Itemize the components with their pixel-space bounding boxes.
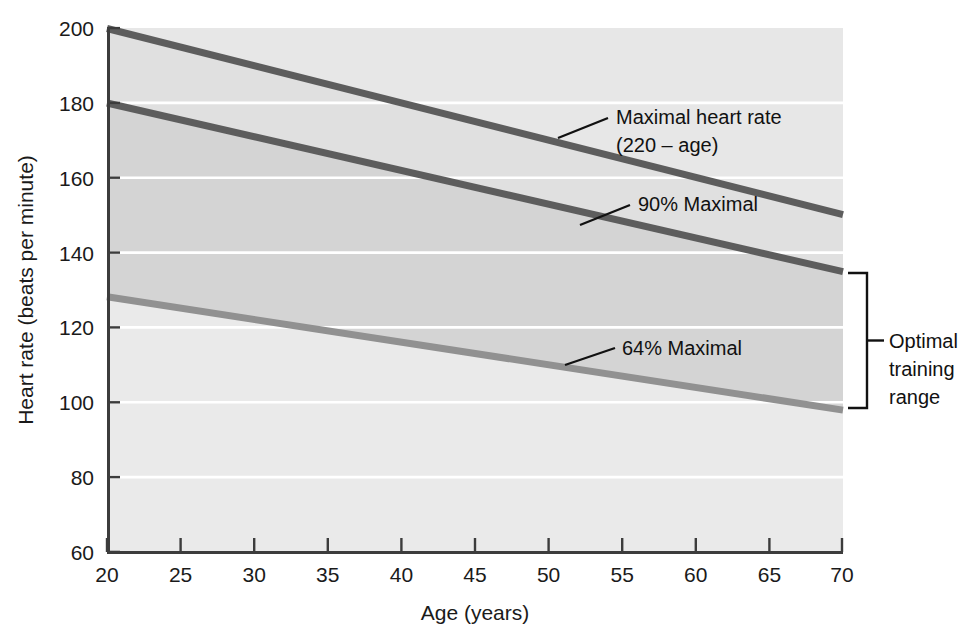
x-tick-label-55: 55 <box>611 563 634 586</box>
x-tick-label-45: 45 <box>463 563 486 586</box>
optimal-training-range-bracket <box>848 273 884 408</box>
optimal-training-range-label: Optimal training range <box>889 330 958 408</box>
y-tick-label-180: 180 <box>59 92 94 115</box>
annotation-90-percent-maximal: 90% Maximal <box>638 193 758 215</box>
chart-svg: 200 180 160 140 120 100 80 60 20 25 30 3… <box>0 0 970 638</box>
x-tick-label-25: 25 <box>169 563 192 586</box>
bracket-label-line3: range <box>889 386 940 408</box>
y-tick-label-140: 140 <box>59 242 94 265</box>
y-tick-label-160: 160 <box>59 167 94 190</box>
annotation-maximal-line1: Maximal heart rate <box>616 106 782 128</box>
y-tick-label-200: 200 <box>59 17 94 40</box>
y-tick-label-120: 120 <box>59 316 94 339</box>
y-tick-labels: 200 180 160 140 120 100 80 60 <box>59 17 94 564</box>
annotation-maximal-line2: (220 – age) <box>616 134 718 156</box>
x-tick-label-30: 30 <box>243 563 266 586</box>
annotation-64-percent-maximal: 64% Maximal <box>622 337 742 359</box>
x-tick-label-50: 50 <box>537 563 560 586</box>
x-tick-label-40: 40 <box>390 563 413 586</box>
x-tick-label-70: 70 <box>830 563 853 586</box>
x-tick-label-20: 20 <box>95 563 118 586</box>
bracket-label-line1: Optimal <box>889 330 958 352</box>
x-tick-labels: 20 25 30 35 40 45 50 55 60 65 70 <box>95 563 853 586</box>
x-tick-label-60: 60 <box>684 563 707 586</box>
y-tick-label-100: 100 <box>59 391 94 414</box>
x-tick-label-35: 35 <box>316 563 339 586</box>
bracket-path <box>848 273 867 408</box>
y-axis-title: Heart rate (beats per minute) <box>14 155 37 425</box>
bracket-label-line2: training <box>889 358 955 380</box>
heart-rate-training-zone-chart: 200 180 160 140 120 100 80 60 20 25 30 3… <box>0 0 970 638</box>
y-tick-label-60: 60 <box>71 541 94 564</box>
y-tick-label-80: 80 <box>71 466 94 489</box>
x-axis-title: Age (years) <box>421 601 530 624</box>
x-tick-label-65: 65 <box>758 563 781 586</box>
